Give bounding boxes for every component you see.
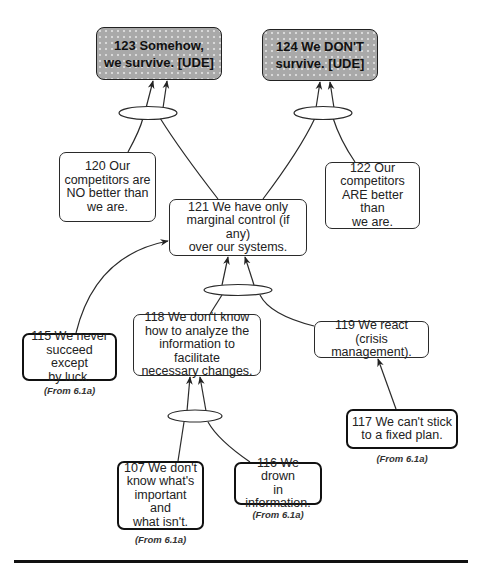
source-note-107: (From 6.1a) <box>117 534 204 545</box>
node-115: 115 We never succeed except by luck. <box>22 333 117 381</box>
source-note-115: (From 6.1a) <box>22 385 117 396</box>
node-119: 119 We react (crisis management). <box>314 321 429 358</box>
arrow-and-123-right <box>163 81 167 108</box>
node-117: 117 We can't stick to a fixed plan. <box>346 409 458 449</box>
arrow-and-124-left <box>316 82 320 108</box>
and-junction-118 <box>168 410 222 422</box>
connector-122-to-and-124 <box>333 118 355 162</box>
bottom-divider <box>14 560 468 563</box>
node-118: 118 We don't know how to analyze the inf… <box>133 314 261 376</box>
node-122: 122 Our competitors ARE better than we a… <box>325 162 420 229</box>
and-junction-123 <box>119 107 177 120</box>
connector-120-to-and-123 <box>128 118 143 152</box>
source-note-116: (From 6.1a) <box>234 509 322 520</box>
connector-107-to-and-118 <box>178 422 184 461</box>
arrow-and-123-left <box>146 81 153 108</box>
connector-121-to-and-124 <box>263 118 315 199</box>
arrow-and-124-right <box>330 82 334 108</box>
arrow-and-118-left <box>187 377 190 411</box>
arrow-and-121-left <box>222 257 228 285</box>
arrow-117-to-119 <box>378 359 396 409</box>
arrow-and-121-right <box>245 257 254 285</box>
and-junction-124 <box>294 107 352 120</box>
node-120: 120 Our competitors are NO better than w… <box>59 152 156 222</box>
and-junction-121 <box>204 285 272 296</box>
connector-121-to-and-123 <box>160 118 218 199</box>
node-107: 107 We don't know what's important and w… <box>117 461 204 530</box>
diagram-canvas: 123 Somehow, we survive. [UDE] 124 We DO… <box>0 0 482 576</box>
connector-119-to-and-121 <box>260 295 314 326</box>
node-124-ude: 124 We DON'T survive. [UDE] <box>262 29 378 81</box>
node-116: 116 We drown in information. <box>234 462 322 505</box>
source-note-117: (From 6.1a) <box>346 453 458 464</box>
arrow-and-118-right <box>200 377 206 411</box>
node-121: 121 We have only marginal control (if an… <box>169 199 307 256</box>
node-123-ude: 123 Somehow, we survive. [UDE] <box>96 27 222 80</box>
